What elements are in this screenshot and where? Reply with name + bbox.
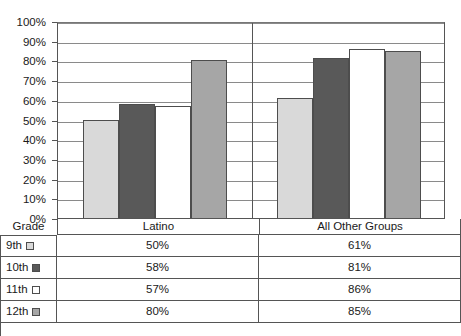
y-axis-tick-label: 80%	[0, 55, 53, 67]
grade-label: 12th	[6, 306, 28, 318]
plot-area	[57, 22, 445, 219]
bar	[83, 120, 119, 219]
table-cell-value: 86%	[259, 279, 461, 301]
legend-swatch-icon	[32, 264, 40, 272]
chart-page: 0%10%20%30%40%50%60%70%80%90%100% Grade …	[0, 0, 461, 336]
grade-label: 9th	[6, 240, 22, 252]
table-row-grade-cell: 10th	[0, 257, 57, 279]
grade-label: 10th	[6, 262, 28, 274]
bar	[277, 98, 313, 218]
category-divider	[252, 23, 253, 218]
table-cell-value: 85%	[259, 301, 461, 323]
y-axis-tick-label: 20%	[0, 174, 53, 186]
table-cell-value: 81%	[259, 257, 461, 279]
y-axis-tick-label: 40%	[0, 134, 53, 146]
table-row-grade-cell: 11th	[0, 279, 57, 301]
table-cell-value: 50%	[57, 235, 259, 257]
legend-swatch-icon	[26, 242, 34, 250]
table-column-header: Latino	[57, 219, 259, 235]
legend-swatch-icon	[32, 308, 40, 316]
bar	[119, 104, 155, 218]
table-cell-value: 57%	[57, 279, 259, 301]
y-axis-tick-label: 90%	[0, 36, 53, 48]
y-axis-tick-label: 50%	[0, 115, 53, 127]
gridline	[58, 43, 444, 44]
data-table: Grade LatinoAll Other Groups 9th50%61%10…	[0, 219, 461, 336]
y-axis-tick-label: 30%	[0, 154, 53, 166]
bar	[385, 51, 421, 218]
y-axis-tick-label: 70%	[0, 75, 53, 87]
table-cell-value: 61%	[259, 235, 461, 257]
bar	[155, 106, 191, 218]
table-cell-value: 80%	[57, 301, 259, 323]
table-column-header: All Other Groups	[259, 219, 461, 235]
legend-swatch-icon	[32, 286, 40, 294]
table-corner-label: Grade	[0, 219, 57, 235]
table-cell-value: 58%	[57, 257, 259, 279]
y-axis-tick-label: 100%	[0, 16, 53, 28]
y-axis-tick-label: 60%	[0, 95, 53, 107]
bar	[313, 58, 349, 218]
table-row-grade-cell: 12th	[0, 301, 57, 323]
grade-label: 11th	[6, 284, 28, 296]
y-axis-tick-label: 10%	[0, 193, 53, 205]
bar	[349, 49, 385, 218]
gridline	[58, 23, 444, 24]
table-row-grade-cell: 9th	[0, 235, 57, 257]
bar	[191, 60, 227, 218]
